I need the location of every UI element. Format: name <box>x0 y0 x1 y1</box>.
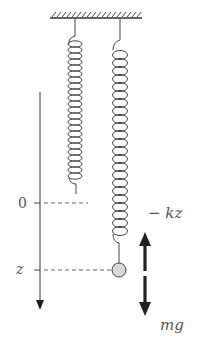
arrow-down-icon <box>139 302 151 316</box>
mass-ball <box>112 263 126 277</box>
left-spring <box>68 18 82 194</box>
arrow-up-icon <box>139 232 151 246</box>
position-label: z <box>15 261 24 277</box>
gravity-force-label: mg <box>160 316 184 334</box>
ceiling <box>50 12 142 18</box>
origin-label: 0 <box>18 195 27 211</box>
spring-force-label: − kz <box>148 204 182 222</box>
spring-force-arrow <box>139 232 151 271</box>
gravity-force-arrow <box>139 276 151 316</box>
z-axis <box>36 92 44 310</box>
axis-arrowhead-icon <box>36 300 44 310</box>
right-spring <box>113 18 128 263</box>
mass-spring-diagram: 0 z − kz mg <box>0 0 203 359</box>
